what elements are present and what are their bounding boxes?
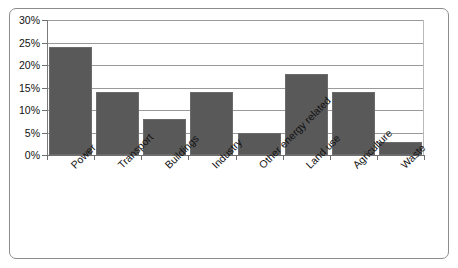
x-tick-mark [236,155,237,160]
x-tick-mark [424,155,425,160]
y-tick-mark [42,88,47,89]
x-tick-mark [188,155,189,160]
y-tick-label: 30% [2,14,40,26]
x-tick-mark [141,155,142,160]
y-tick-label: 10% [2,104,40,116]
y-tick-label: 5% [2,127,40,139]
plot-border [47,20,424,155]
y-tick-mark [42,110,47,111]
y-tick-mark [42,65,47,66]
x-tick-mark [47,155,48,160]
x-tick-mark [330,155,331,160]
chart-figure: 0%5%10%15%20%25%30% PowerTransportBuildi… [0,0,458,268]
y-tick-label: 20% [2,59,40,71]
y-tick-mark [42,155,47,156]
y-tick-label: 25% [2,37,40,49]
plot-area [47,20,424,155]
x-tick-mark [283,155,284,160]
x-tick-mark [377,155,378,160]
y-tick-mark [42,133,47,134]
x-tick-mark [94,155,95,160]
y-tick-mark [42,20,47,21]
y-tick-label: 15% [2,82,40,94]
y-tick-mark [42,43,47,44]
y-tick-label: 0% [2,149,40,161]
